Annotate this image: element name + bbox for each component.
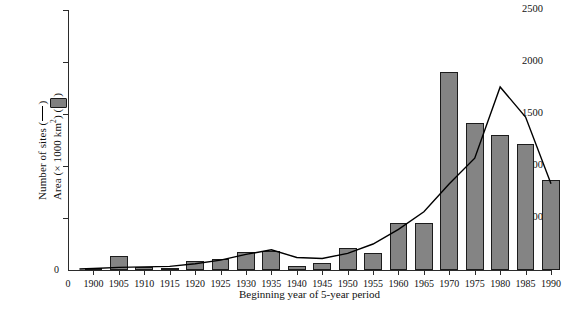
x-axis-tick <box>297 270 298 275</box>
y-axis-line <box>68 10 69 271</box>
x-axis-tick <box>195 270 196 275</box>
bar <box>440 72 458 270</box>
x-axis-tick <box>551 270 552 275</box>
x-axis-tick <box>424 270 425 275</box>
y-axis-origin-label: 0 <box>54 264 59 275</box>
y-axis-label-sites-text: Number of sites ( <box>36 122 48 200</box>
bar <box>415 223 433 270</box>
x-axis-tick <box>500 270 501 275</box>
x-axis-label: Beginning year of 5-year period <box>68 288 551 300</box>
bar <box>110 256 128 270</box>
x-axis-tick <box>348 270 349 275</box>
bar <box>390 223 408 270</box>
y-axis-label-sites: Number of sites () <box>36 101 48 200</box>
y-axis-tick <box>63 62 68 63</box>
y-axis-tick-label: 2500 <box>483 3 543 14</box>
y-axis-label-sites-close: ) <box>36 101 48 105</box>
bar <box>517 144 535 270</box>
y-axis-label-area-text: Area (× 1000 km <box>51 123 63 200</box>
x-axis-tick <box>221 270 222 275</box>
bar <box>313 263 331 270</box>
bar <box>466 123 484 270</box>
y-axis-tick-label: 1500 <box>483 107 543 118</box>
chart-figure: Number of sites () Area (× 1000 km2) () … <box>0 0 571 309</box>
y-axis-label-area-superscript: 2 <box>49 119 58 123</box>
x-axis-tick <box>322 270 323 275</box>
x-axis-tick <box>449 270 450 275</box>
bar <box>161 268 179 270</box>
y-axis-label-group: Number of sites () Area (× 1000 km2) () <box>10 0 56 280</box>
bar <box>135 267 153 270</box>
y-axis-label-area-close: ) <box>51 93 63 97</box>
line-series-key-icon <box>42 106 43 121</box>
x-axis-tick <box>398 270 399 275</box>
x-axis-tick <box>144 270 145 275</box>
y-axis-tick <box>63 114 68 115</box>
y-axis-tick <box>63 10 68 11</box>
x-axis-tick <box>526 270 527 275</box>
y-axis-tick <box>63 166 68 167</box>
bar <box>212 259 230 270</box>
bar <box>237 252 255 270</box>
y-axis-tick <box>63 218 68 219</box>
x-axis-line <box>68 270 552 271</box>
bar <box>542 180 560 270</box>
y-axis-label-area-mid: ) ( <box>51 109 63 119</box>
bar <box>491 135 509 270</box>
x-axis-tick <box>373 270 374 275</box>
plot-area: 0 5001000150020002500 019001905191019151… <box>68 10 551 270</box>
bar <box>288 266 306 270</box>
bar <box>339 248 357 270</box>
bar <box>262 251 280 270</box>
y-axis-label-area: Area (× 1000 km2) () <box>49 93 67 200</box>
bar <box>364 253 382 270</box>
bar <box>85 268 103 270</box>
bar-series-key-icon <box>50 98 67 108</box>
y-axis-tick-label: 2000 <box>483 55 543 66</box>
x-axis-tick <box>170 270 171 275</box>
x-axis-tick <box>119 270 120 275</box>
bar <box>186 261 204 270</box>
x-axis-tick <box>271 270 272 275</box>
x-axis-tick <box>246 270 247 275</box>
x-axis-tick <box>93 270 94 275</box>
x-axis-tick <box>475 270 476 275</box>
